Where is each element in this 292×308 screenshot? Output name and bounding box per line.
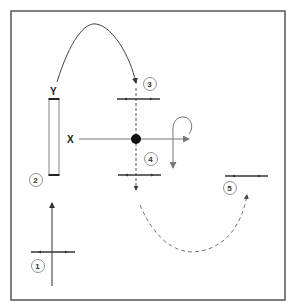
top-arc-arrow <box>57 24 136 83</box>
x-axis-label: X <box>67 134 74 145</box>
y-axis-label: Y <box>50 86 57 97</box>
dashed-arc-arrow <box>140 195 247 252</box>
step-5-bar <box>225 175 268 178</box>
step-5-marker: 5 <box>224 182 237 195</box>
step-2-marker: 2 <box>30 174 43 187</box>
center-dot <box>131 134 141 144</box>
step-3-marker: 3 <box>144 78 157 91</box>
column-rect <box>49 99 59 175</box>
svg-text:2: 2 <box>33 176 38 185</box>
loop-arrow <box>173 117 192 168</box>
diagram-svg: Y 2 3 X <box>0 0 292 308</box>
step-4-bar <box>118 174 161 177</box>
step-4-marker: 4 <box>145 153 158 166</box>
step-1-bar <box>31 251 75 254</box>
svg-text:1: 1 <box>35 262 40 271</box>
step-3-bar <box>117 98 160 101</box>
svg-text:3: 3 <box>147 80 152 89</box>
diagram-canvas: Y 2 3 X <box>0 0 292 308</box>
svg-text:4: 4 <box>148 155 153 164</box>
svg-text:5: 5 <box>227 184 232 193</box>
step-1-marker: 1 <box>32 260 45 273</box>
